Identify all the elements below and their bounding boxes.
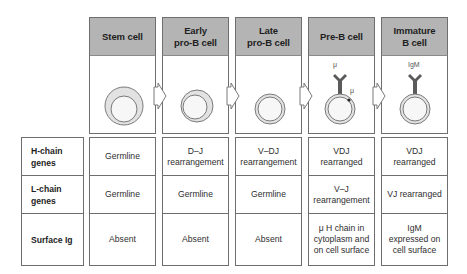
cell-with-igm-receptor-icon: IgM	[382, 56, 449, 134]
l-chain-late-pro-b: Germline	[235, 175, 302, 214]
l-chain-early-pro-b: Germline	[162, 175, 229, 214]
l-chain-pre-b: V–Jrearrangement	[308, 175, 375, 214]
stage-image-early-pro-b	[162, 56, 229, 134]
cell-with-mu-receptor-icon: μ μ	[309, 56, 376, 134]
row-label-line1: Surface Ig	[31, 234, 73, 246]
h-chain-late-pro-b: V–DJrearrangement	[235, 137, 302, 176]
stage-header-stem-cell: Stem cell	[89, 17, 156, 56]
row-label-line2: genes	[31, 195, 62, 207]
surface-ig-early-pro-b: Absent	[162, 213, 229, 266]
stage-header-early-pro-b: Earlypro-B cell	[162, 17, 229, 56]
progression-arrow-icon	[372, 82, 386, 110]
cell-icon	[236, 56, 303, 134]
row-label-surface-ig: Surface Ig	[21, 213, 84, 266]
surface-ig-stem: Absent	[89, 213, 156, 266]
stage-title-line1: Late	[247, 25, 290, 37]
stage-title-line1: Early	[174, 25, 217, 37]
stage-title: Stem cell	[102, 31, 143, 42]
stage-header-pre-b: Pre-B cell	[308, 17, 375, 56]
surface-ig-immature-b: IgMexpressed oncell surface	[381, 213, 448, 266]
h-chain-early-pro-b: D–Jrearrangement	[162, 137, 229, 176]
stage-image-late-pro-b	[235, 56, 302, 134]
l-chain-stem: Germline	[89, 175, 156, 214]
cell-icon	[163, 56, 230, 134]
stage-title-line2: B cell	[394, 37, 436, 49]
h-chain-immature-b: VDJrearranged	[381, 137, 448, 176]
stage-title-line2: pro-B cell	[247, 37, 290, 49]
row-label-h-chain: H-chaingenes	[21, 137, 84, 176]
stage-image-stem-cell	[89, 56, 156, 134]
row-label-l-chain: L-chaingenes	[21, 175, 84, 214]
mu-surface-label: μ	[333, 61, 337, 69]
h-chain-pre-b: VDJrearranged	[308, 137, 375, 176]
stage-image-immature-b: IgM	[381, 56, 448, 134]
progression-arrow-icon	[226, 82, 240, 110]
cell-icon	[90, 56, 157, 134]
h-chain-stem: Germline	[89, 137, 156, 176]
stage-title: Pre-B cell	[320, 31, 363, 42]
progression-arrow-icon	[153, 82, 167, 110]
progression-arrow-icon	[299, 82, 313, 110]
mu-cytoplasm-label: μ	[350, 87, 354, 95]
stage-header-late-pro-b: Latepro-B cell	[235, 17, 302, 56]
surface-ig-pre-b: μ H chain incytoplasm andon cell surface	[308, 213, 375, 266]
surface-ig-late-pro-b: Absent	[235, 213, 302, 266]
row-label-line2: genes	[31, 157, 63, 169]
igm-label: IgM	[408, 61, 420, 69]
stage-image-pre-b: μ μ	[308, 56, 375, 134]
stage-header-immature-b: ImmatureB cell	[381, 17, 448, 56]
cytoplasmic-mu-dot	[347, 98, 350, 101]
l-chain-immature-b: VJ rearranged	[381, 175, 448, 214]
stage-title-line2: pro-B cell	[174, 37, 217, 49]
stage-title-line1: Immature	[394, 25, 436, 37]
row-label-line1: H-chain	[31, 145, 63, 157]
row-label-line1: L-chain	[31, 183, 62, 195]
